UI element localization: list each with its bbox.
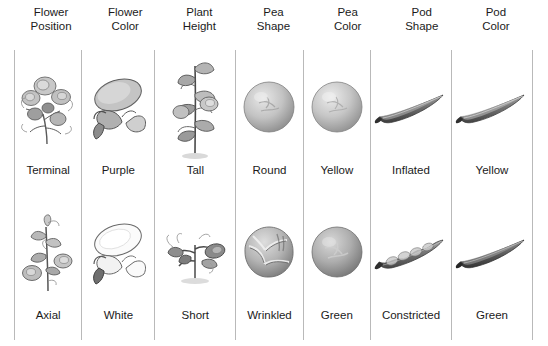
- column-headers: Flower Position Flower Color Plant Heigh…: [14, 6, 533, 46]
- dominant-label-pod-color: Yellow: [476, 164, 509, 195]
- column-pea-shape: Round: [235, 50, 302, 340]
- header-flower-color: Flower Color: [88, 6, 162, 46]
- header-line-2: Color: [459, 20, 533, 34]
- header-line-2: Height: [162, 20, 236, 34]
- header-pea-color: Pea Color: [311, 6, 385, 46]
- recessive-cell-pea-color: Green: [304, 195, 370, 340]
- dominant-cell-pod-shape: Inflated: [371, 50, 451, 195]
- recessive-label-plant-height: Short: [182, 309, 210, 340]
- header-line-2: Color: [88, 20, 162, 34]
- header-line-1: Plant: [162, 6, 236, 20]
- recessive-cell-plant-height: Short: [155, 195, 235, 340]
- header-flower-position: Flower Position: [14, 6, 88, 46]
- header-line-2: Position: [14, 20, 88, 34]
- header-line-2: Shape: [236, 20, 310, 34]
- green-pea-icon: [304, 195, 370, 309]
- header-line-1: Pod: [385, 6, 459, 20]
- dominant-cell-flower-color: Purple: [82, 50, 154, 195]
- header-pod-color: Pod Color: [459, 6, 533, 46]
- header-line-1: Pea: [311, 6, 385, 20]
- constricted-pod-icon: [371, 195, 451, 309]
- recessive-cell-pod-shape: Constricted: [371, 195, 451, 340]
- column-pea-color: Yellow: [303, 50, 370, 340]
- recessive-cell-flower-color: White: [82, 195, 154, 340]
- dominant-label-flower-color: Purple: [102, 164, 135, 195]
- tall-plant-icon: [155, 50, 235, 164]
- recessive-label-flower-position: Axial: [36, 309, 61, 340]
- white-flower-icon: [82, 195, 154, 309]
- dominant-cell-flower-position: Terminal: [15, 50, 81, 195]
- purple-flower-icon: [82, 50, 154, 164]
- short-plant-icon: [155, 195, 235, 309]
- column-plant-height: Tall: [154, 50, 235, 340]
- header-pod-shape: Pod Shape: [385, 6, 459, 46]
- header-line-1: Flower: [14, 6, 88, 20]
- mendel-pea-traits-chart: Flower Position Flower Color Plant Heigh…: [0, 0, 548, 346]
- inflated-pod-icon: [371, 50, 451, 164]
- recessive-label-pod-shape: Constricted: [382, 309, 440, 340]
- recessive-cell-pod-color: Green: [452, 195, 532, 340]
- wrinkled-pea-icon: [236, 195, 302, 309]
- header-pea-shape: Pea Shape: [236, 6, 310, 46]
- recessive-label-pea-shape: Wrinkled: [247, 309, 292, 340]
- recessive-label-flower-color: White: [104, 309, 133, 340]
- recessive-cell-flower-position: Axial: [15, 195, 81, 340]
- traits-grid: Terminal: [14, 50, 533, 340]
- column-flower-position: Terminal: [14, 50, 81, 340]
- yellow-pod-icon: [452, 50, 532, 164]
- dominant-label-flower-position: Terminal: [26, 164, 69, 195]
- column-flower-color: Purple: [81, 50, 154, 340]
- header-plant-height: Plant Height: [162, 6, 236, 46]
- dominant-label-pea-color: Yellow: [320, 164, 353, 195]
- header-line-2: Shape: [385, 20, 459, 34]
- dominant-label-pea-shape: Round: [253, 164, 287, 195]
- header-line-2: Color: [311, 20, 385, 34]
- dominant-cell-pea-color: Yellow: [304, 50, 370, 195]
- dominant-cell-pea-shape: Round: [236, 50, 302, 195]
- column-pod-color: Yellow: [451, 50, 533, 340]
- dominant-label-plant-height: Tall: [187, 164, 204, 195]
- dominant-cell-plant-height: Tall: [155, 50, 235, 195]
- dominant-cell-pod-color: Yellow: [452, 50, 532, 195]
- recessive-cell-pea-shape: Wrinkled: [236, 195, 302, 340]
- recessive-label-pea-color: Green: [321, 309, 353, 340]
- recessive-label-pod-color: Green: [476, 309, 508, 340]
- header-line-1: Pod: [459, 6, 533, 20]
- dominant-label-pod-shape: Inflated: [392, 164, 430, 195]
- round-pea-icon: [236, 50, 302, 164]
- green-pod-icon: [452, 195, 532, 309]
- axial-flower-stem-icon: [15, 195, 81, 309]
- header-line-1: Flower: [88, 6, 162, 20]
- column-pod-shape: Inflated: [370, 50, 451, 340]
- yellow-pea-icon: [304, 50, 370, 164]
- terminal-flower-cluster-icon: [15, 50, 81, 164]
- header-line-1: Pea: [236, 6, 310, 20]
